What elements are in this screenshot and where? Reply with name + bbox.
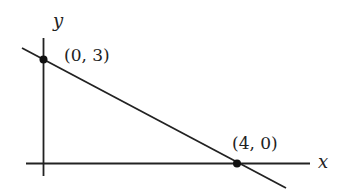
x-axis-label: x	[318, 151, 328, 172]
y-axis-label: y	[52, 10, 64, 31]
graph-line	[22, 48, 286, 188]
point-x-intercept	[233, 160, 241, 168]
coordinate-diagram: y x (0, 3) (4, 0)	[0, 0, 347, 195]
point-label-4-0: (4, 0)	[232, 133, 278, 153]
point-label-0-3: (0, 3)	[64, 45, 110, 65]
point-y-intercept	[40, 56, 48, 64]
